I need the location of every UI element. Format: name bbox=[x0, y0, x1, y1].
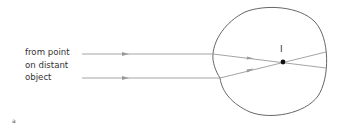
arrow-icon bbox=[247, 69, 255, 73]
focus-label: I bbox=[280, 44, 283, 54]
arrow-icon bbox=[122, 76, 129, 80]
source-label-line2: on distant bbox=[25, 59, 70, 72]
eye-focusing-diagram: from point on distant object I a bbox=[0, 0, 341, 127]
figure-mark: a bbox=[12, 117, 16, 124]
lower-ray-inside bbox=[220, 52, 326, 78]
source-label-line3: object bbox=[25, 71, 70, 84]
source-label: from point on distant object bbox=[25, 46, 70, 84]
focus-point bbox=[281, 60, 286, 65]
source-label-line1: from point bbox=[25, 46, 70, 59]
arrow-icon bbox=[122, 52, 129, 56]
